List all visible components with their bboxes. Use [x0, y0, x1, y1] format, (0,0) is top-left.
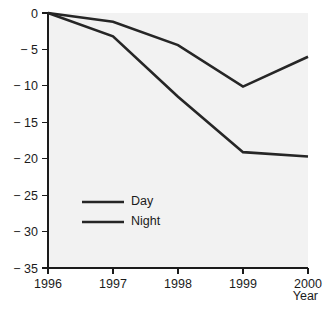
x-tick-label: 1997 — [99, 277, 127, 291]
y-axis-ticks — [42, 13, 48, 268]
y-axis-tick-labels: 0− 5− 10− 15− 20− 25− 30− 35 — [13, 7, 38, 276]
plot-area-background — [48, 13, 308, 268]
x-tick-label: 1999 — [229, 277, 257, 291]
x-axis-title: Year — [293, 289, 318, 303]
y-tick-label: − 25 — [13, 189, 38, 203]
legend-label-day: Day — [131, 194, 154, 208]
x-tick-label: 1998 — [164, 277, 192, 291]
y-tick-label: 0 — [31, 7, 38, 21]
legend-label-night: Night — [131, 214, 161, 228]
y-tick-label: − 15 — [13, 116, 38, 130]
line-chart-figure: 0− 5− 10− 15− 20− 25− 30− 35 19961997199… — [0, 0, 327, 317]
chart-canvas: 0− 5− 10− 15− 20− 25− 30− 35 19961997199… — [0, 0, 327, 317]
x-axis-ticks — [48, 268, 308, 274]
y-tick-label: − 20 — [13, 152, 38, 166]
y-tick-label: − 30 — [13, 225, 38, 239]
y-tick-label: − 10 — [13, 79, 38, 93]
x-tick-label: 1996 — [34, 277, 62, 291]
y-tick-label: − 35 — [13, 262, 38, 276]
y-tick-label: − 5 — [20, 43, 38, 57]
x-axis-tick-labels: 19961997199819992000 — [34, 277, 322, 291]
